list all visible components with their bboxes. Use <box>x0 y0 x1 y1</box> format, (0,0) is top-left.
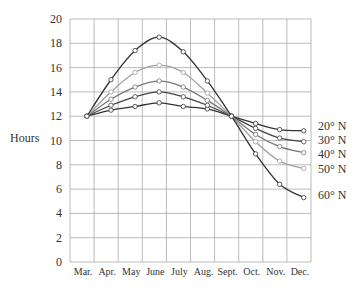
y-tick-label: 2 <box>56 231 62 245</box>
y-tick-label: 20 <box>50 12 62 26</box>
data-point-marker <box>133 104 137 108</box>
data-point-marker <box>253 121 257 125</box>
data-point-marker <box>205 98 209 102</box>
x-tick-label: Aug. <box>194 266 214 277</box>
grid <box>70 19 311 262</box>
data-point-marker <box>181 70 185 74</box>
data-point-marker <box>109 97 113 101</box>
data-point-marker <box>277 182 281 186</box>
data-point-marker <box>277 159 281 163</box>
y-tick-label: 8 <box>56 158 62 172</box>
series-label: 20° N <box>318 119 347 133</box>
data-point-marker <box>181 85 185 89</box>
data-point-marker <box>302 140 306 144</box>
data-point-marker <box>157 35 161 39</box>
data-point-marker <box>181 95 185 99</box>
data-point-marker <box>157 79 161 83</box>
series-label: 30° N <box>318 133 347 147</box>
x-tick-label: June <box>146 266 165 277</box>
y-tick-label: 16 <box>50 61 62 75</box>
data-point-marker <box>133 95 137 99</box>
data-point-marker <box>302 195 306 199</box>
data-point-marker <box>205 79 209 83</box>
data-point-marker <box>181 50 185 54</box>
x-tick-label: July <box>171 266 188 277</box>
data-point-marker <box>133 85 137 89</box>
y-tick-label: 18 <box>50 36 62 50</box>
data-point-marker <box>253 126 257 130</box>
series-label: 40° N <box>318 147 347 161</box>
data-point-marker <box>205 91 209 95</box>
x-tick-label: Mar. <box>74 266 93 277</box>
data-point-marker <box>302 166 306 170</box>
data-point-marker <box>253 140 257 144</box>
y-tick-label: 12 <box>50 109 62 123</box>
data-point-marker <box>253 152 257 156</box>
daylight-hours-chart: 02468101214161820 Mar.Apr.MayJuneJulyAug… <box>0 0 356 290</box>
data-point-marker <box>109 103 113 107</box>
data-point-marker <box>157 63 161 67</box>
data-point-marker <box>253 132 257 136</box>
data-point-marker <box>133 70 137 74</box>
data-point-marker <box>277 144 281 148</box>
data-point-marker <box>277 136 281 140</box>
y-axis-ticks: 02468101214161820 <box>50 12 62 269</box>
data-point-marker <box>302 150 306 154</box>
y-tick-label: 4 <box>56 206 62 220</box>
data-point-marker <box>229 114 233 118</box>
y-tick-label: 10 <box>50 134 62 148</box>
series-label: 60° N <box>318 188 347 202</box>
x-tick-label: Dec. <box>291 266 310 277</box>
y-tick-label: 6 <box>56 182 62 196</box>
data-point-marker <box>85 114 89 118</box>
y-tick-label: 14 <box>50 85 62 99</box>
series-label: 50° N <box>318 162 347 176</box>
x-axis-ticks: Mar.Apr.MayJuneJulyAug.Sept.Oct.Nov.Dec. <box>74 266 310 277</box>
x-tick-label: May <box>122 266 140 277</box>
data-point-marker <box>109 108 113 112</box>
data-point-marker <box>181 104 185 108</box>
data-point-marker <box>157 90 161 94</box>
x-tick-label: Sept. <box>218 266 238 277</box>
data-point-marker <box>157 101 161 105</box>
data-point-marker <box>302 129 306 133</box>
data-point-marker <box>109 90 113 94</box>
x-tick-label: Nov. <box>266 266 285 277</box>
y-axis-label: Hours <box>10 131 40 145</box>
data-point-marker <box>133 48 137 52</box>
data-point-marker <box>205 103 209 107</box>
data-point-marker <box>277 127 281 131</box>
legend: 20° N30° N40° N50° N60° N <box>318 119 347 202</box>
y-tick-label: 0 <box>56 255 62 269</box>
x-tick-label: Apr. <box>98 266 116 277</box>
x-tick-label: Oct. <box>243 266 260 277</box>
data-point-marker <box>109 78 113 82</box>
